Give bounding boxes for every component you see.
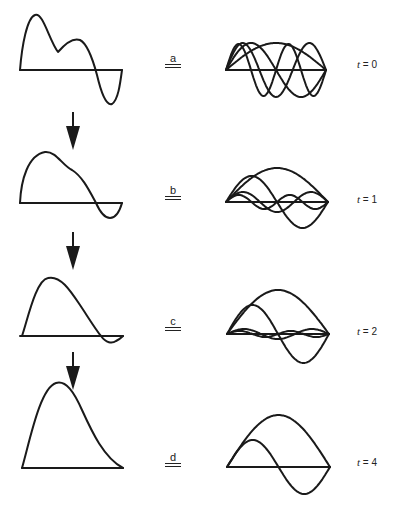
- row-label-d: d: [165, 452, 181, 467]
- time-variable: t: [357, 193, 360, 205]
- equals-sign: [165, 463, 181, 467]
- arrow-down-icon: [66, 112, 80, 150]
- sine-mode-n1: [227, 415, 330, 467]
- time-value: 0: [371, 59, 377, 70]
- time-value: 4: [371, 457, 377, 468]
- modes-b: [226, 168, 328, 228]
- row-label-b: b: [165, 185, 181, 200]
- label-text: d: [165, 452, 181, 462]
- time-variable: t: [357, 456, 360, 468]
- time-variable: t: [357, 58, 360, 70]
- composite-wave-a: [20, 15, 122, 104]
- time-variable: t: [357, 325, 360, 337]
- equals-sign: [165, 327, 181, 331]
- time-label-a: t = 0: [357, 58, 377, 70]
- row-label-a: a: [165, 53, 181, 68]
- modes-d: [227, 415, 330, 494]
- composite-wave-d: [22, 383, 123, 468]
- composite-wave-b: [20, 152, 122, 218]
- time-label-b: t = 1: [357, 193, 377, 205]
- arrow-down-icon: [66, 232, 80, 270]
- equals-sign: [165, 64, 181, 68]
- modes-a: [226, 43, 326, 97]
- time-value: 1: [371, 194, 377, 205]
- sine-mode-n1: [227, 290, 329, 334]
- time-value: 2: [371, 326, 377, 337]
- time-label-d: t = 4: [357, 456, 377, 468]
- equals-sign: [165, 196, 181, 200]
- label-text: a: [165, 53, 181, 63]
- composite-wave-c: [20, 278, 123, 343]
- sine-mode-n1: [226, 168, 328, 202]
- modes-c: [227, 290, 329, 363]
- label-text: b: [165, 185, 181, 195]
- diagram-canvas: [0, 0, 402, 508]
- time-label-c: t = 2: [357, 325, 377, 337]
- label-text: c: [165, 316, 181, 326]
- row-label-c: c: [165, 316, 181, 331]
- arrow-down-icon: [66, 352, 80, 390]
